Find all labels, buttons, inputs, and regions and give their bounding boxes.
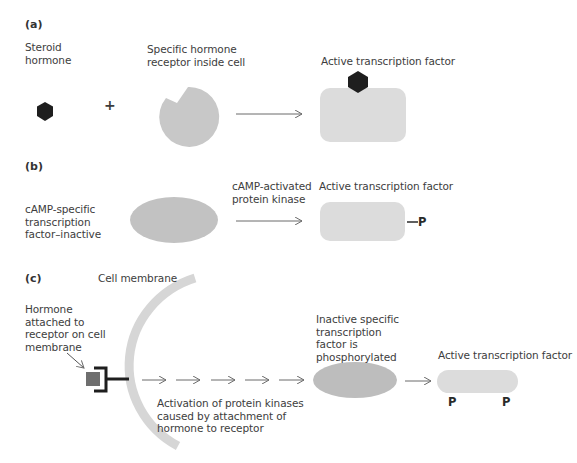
inactive-transcription-factor-b: [130, 197, 218, 243]
phosphate-label-b: P: [418, 215, 426, 229]
panel-label-b: (b): [25, 160, 43, 173]
receptor-icon: [159, 87, 219, 147]
panel-label-c: (c): [25, 272, 42, 285]
cell-membrane-label: Cell membrane: [98, 272, 177, 285]
kinase-label: cAMP-activated protein kinase: [232, 180, 312, 205]
active-factor-label-c: Active transcription factor: [438, 349, 572, 362]
membrane-hormone-icon: [86, 372, 100, 386]
cascade-label: Activation of protein kinases caused by …: [157, 397, 304, 435]
active-factor-label-b: Active transcription factor: [319, 180, 453, 193]
receptor-label: Specific hormone receptor inside cell: [147, 43, 245, 68]
panel-label-a: (a): [25, 18, 42, 31]
active-transcription-factor-a: [320, 88, 406, 142]
steroid-hormone-label: Steroid hormone: [25, 41, 71, 66]
phosphate-label-c-left: P: [448, 395, 456, 409]
hormone-attached-label: Hormone attached to receptor on cell mem…: [25, 303, 106, 353]
active-transcription-factor-c: [437, 370, 518, 393]
steroid-hormone-icon: [37, 102, 53, 121]
inactive-transcription-factor-c: [313, 362, 397, 398]
active-transcription-factor-b: [320, 202, 405, 241]
plus-sign: +: [104, 99, 116, 112]
inactive-factor-label-c: Inactive specific transcription factor i…: [316, 313, 399, 363]
hormone-pointer-arrow: [67, 353, 84, 368]
active-factor-label-a: Active transcription factor: [321, 55, 455, 68]
inactive-factor-label-b: cAMP-specific transcription factor–inact…: [25, 203, 101, 241]
phosphate-label-c-right: P: [502, 395, 510, 409]
